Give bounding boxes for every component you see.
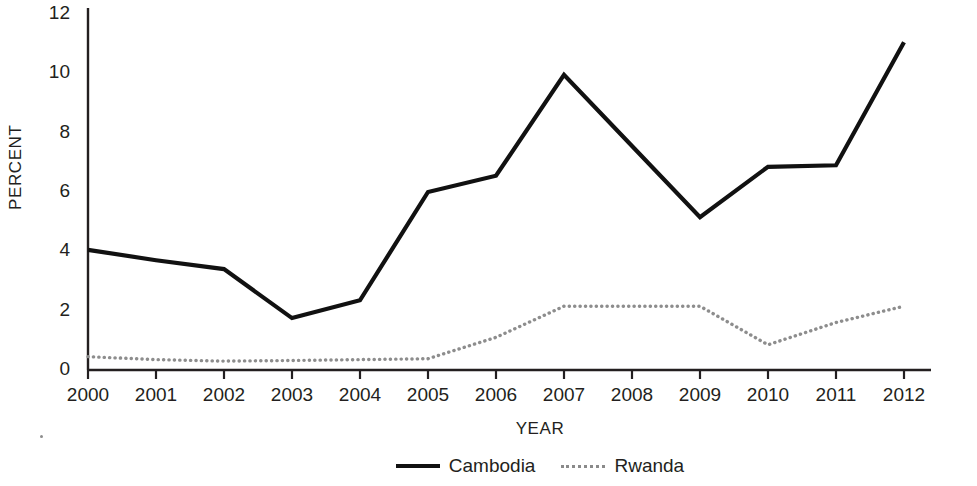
x-axis-title: YEAR (0, 419, 977, 439)
legend-swatch-dotted-line-icon (561, 465, 605, 468)
legend-label-rwanda: Rwanda (614, 455, 684, 477)
series-line-rwanda (88, 306, 904, 361)
legend-label-cambodia: Cambodia (449, 455, 536, 477)
series-lines (88, 42, 904, 361)
tick-marks (88, 370, 904, 379)
axis-lines (88, 8, 931, 370)
page-speck (40, 435, 43, 438)
legend-entry-cambodia: Cambodia (396, 455, 536, 477)
plot-area (0, 0, 977, 486)
legend-entry-rwanda: Rwanda (561, 455, 684, 477)
series-line-cambodia (88, 42, 904, 318)
chart-legend: Cambodia Rwanda (0, 455, 977, 477)
legend-swatch-solid-line-icon (396, 464, 440, 468)
line-chart: PERCENT 024681012 2000200120022003200420… (0, 0, 977, 486)
